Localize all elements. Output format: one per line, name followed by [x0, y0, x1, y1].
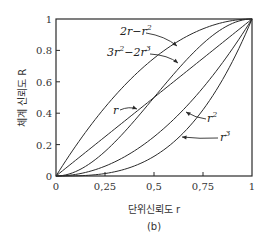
y-axis-title: 체계 신뢰도 R — [17, 69, 28, 127]
y-tick-label: 1 — [46, 14, 52, 25]
x-axis-title: 단위신뢰도 r — [128, 203, 181, 215]
figure-caption: (b) — [147, 221, 161, 232]
y-tick-label: 0.4 — [36, 108, 52, 119]
y-tick-label: 0 — [46, 171, 52, 182]
x-tick-label: 0 — [53, 181, 59, 192]
x-axis-ticks: 00,250,50,751 — [53, 172, 255, 192]
series-line-2 — [56, 19, 252, 176]
x-tick-label: 0,75 — [192, 181, 214, 192]
y-tick-label: 0.6 — [36, 77, 52, 88]
curve-label: r — [113, 104, 119, 117]
x-tick-label: 0,5 — [146, 181, 162, 192]
curve-label: r2 — [207, 110, 217, 125]
curve-label: 3r2−2r3 — [107, 44, 151, 59]
y-tick-label: 0.8 — [36, 45, 52, 56]
annotation-arrow — [182, 137, 218, 138]
curve-label: r3 — [220, 129, 230, 144]
arrowhead-icon — [132, 106, 137, 110]
arrowhead-icon — [173, 59, 178, 63]
reliability-chart: 00,250,50,751 00.20.40.60.81 2r−r23r2−2r… — [0, 0, 270, 242]
y-tick-label: 0.2 — [36, 140, 52, 151]
curve-annotations: 2r−r23r2−2r3rr2r3 — [107, 23, 230, 144]
x-tick-label: 0,25 — [94, 181, 116, 192]
curves-group — [56, 19, 252, 176]
x-tick-label: 1 — [249, 181, 255, 192]
curve-label: 2r−r2 — [119, 23, 152, 38]
